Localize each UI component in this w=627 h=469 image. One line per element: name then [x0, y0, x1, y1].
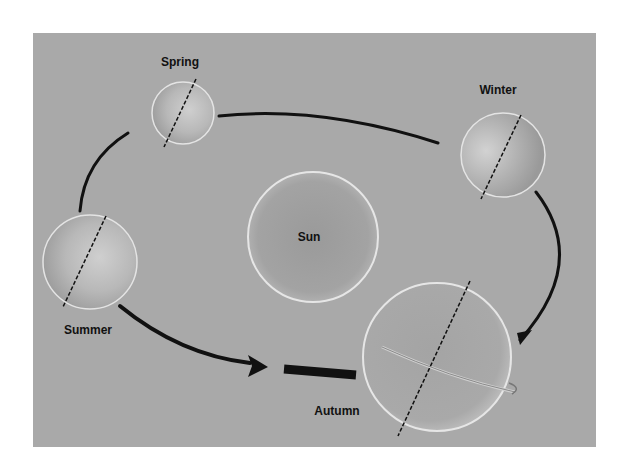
label-summer: Summer: [64, 323, 112, 337]
orbit-arc-winter-autumn: [520, 192, 560, 340]
orbit-arc-arrow-autumn: [284, 369, 356, 375]
label-autumn: Autumn: [314, 404, 359, 418]
label-spring: Spring: [161, 55, 199, 69]
earth-autumn: [363, 281, 516, 436]
orbit-arc-summer-arrow: [120, 306, 250, 363]
orbit-arc-spring-winter: [219, 114, 438, 143]
earth-winter: [461, 113, 545, 199]
orbit-arc-summer-spring: [80, 133, 128, 211]
label-winter: Winter: [479, 83, 516, 97]
arrowhead-right: [517, 330, 532, 345]
arrowhead-bottom: [248, 355, 268, 377]
earth-summer: [43, 215, 137, 309]
earth-spring: [152, 79, 214, 147]
label-sun: Sun: [298, 230, 321, 244]
